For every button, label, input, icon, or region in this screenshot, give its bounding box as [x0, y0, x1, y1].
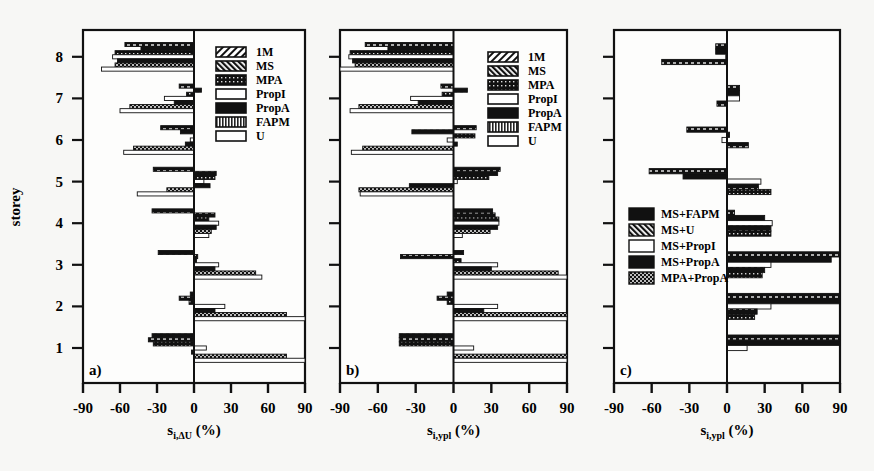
bar-ms [194, 213, 215, 217]
bar-mpa [194, 217, 209, 221]
legend-label: FAPM [256, 115, 290, 129]
legend: MS+FAPMMS+UMS+PropIMS+PropAMPA+PropA [629, 207, 728, 285]
x-tick-label: 90 [298, 400, 313, 416]
bar-ms-fapm [727, 335, 840, 340]
bar-ms-propa [727, 267, 765, 272]
legend-swatch [629, 272, 654, 284]
panel-a: -90-60-30030609012345678si,ΔU (%)a)1MMSM… [56, 30, 313, 441]
bar-1m [454, 167, 501, 171]
legend-swatch [216, 47, 246, 57]
x-tick-label: 30 [224, 400, 239, 416]
bar-1m [454, 209, 493, 213]
bar-propi [194, 346, 206, 350]
legend-label: MS+PropI [661, 239, 716, 253]
bar-ms [148, 338, 194, 342]
legend-label: MPA+PropA [661, 271, 728, 285]
bar-ms-propi [727, 345, 747, 350]
bar-ms [454, 88, 468, 92]
bar-mpa [454, 217, 499, 221]
bar-ms-fapm [727, 252, 840, 257]
bar-mpa [454, 175, 489, 179]
bar-propi [454, 221, 499, 225]
bar-fapm [363, 146, 454, 150]
bar-ms [388, 47, 454, 51]
panel-label: a) [89, 362, 102, 379]
bar-u [340, 67, 454, 71]
legend-label: FAPM [528, 120, 562, 134]
bar-1m [125, 42, 194, 46]
legend-swatch [629, 208, 654, 220]
bar-propi [194, 304, 225, 308]
bar-ms-propi [727, 179, 761, 184]
legend-swatch [629, 256, 654, 268]
legend-label: MPA [256, 73, 283, 87]
bar-u [454, 233, 463, 237]
bar-fapm [454, 271, 559, 275]
bar-mpa [442, 92, 453, 96]
bar-mpa-propa [727, 189, 771, 194]
x-tick-label: 0 [190, 400, 198, 416]
bar-fapm [130, 105, 194, 109]
bar-ms-u [727, 91, 740, 96]
x-tick-label: -30 [679, 400, 699, 416]
bar-propa [454, 308, 484, 312]
bar-propa [194, 267, 215, 271]
bar-ms-u [716, 49, 727, 54]
bar-ms [194, 88, 201, 92]
chart-figure: -90-60-30030609012345678si,ΔU (%)a)1MMSM… [0, 0, 874, 471]
legend-label: PropI [256, 87, 286, 101]
x-tick-label: -90 [330, 400, 350, 416]
panel-b: -90-60-300306090si,ypl (%)b)1MMSMPAPropI… [329, 30, 575, 441]
bar-propa [454, 225, 498, 229]
bar-u [360, 192, 453, 196]
bar-mpa [115, 51, 194, 55]
bar-u [454, 358, 568, 362]
bar-propa [194, 225, 216, 229]
legend-swatch [488, 94, 518, 104]
bar-mpa-propa [727, 231, 771, 236]
bar-ms-propa [727, 143, 748, 148]
bar-propi [411, 96, 454, 100]
bar-mpa [187, 92, 194, 96]
bar-1m [454, 250, 464, 254]
bar-mpa [350, 51, 453, 55]
bar-ms-propi [727, 262, 771, 267]
legend-swatch [488, 52, 518, 62]
bar-propi [113, 55, 194, 59]
bar-mpa [454, 259, 462, 263]
bar-ms-u [683, 174, 727, 179]
bar-ms-propa [727, 309, 757, 314]
bar-mpa [399, 342, 453, 346]
bar-mpa-propa [727, 273, 762, 278]
legend-swatch [216, 61, 246, 71]
bar-u [194, 233, 209, 237]
x-tick-label: -90 [604, 400, 624, 416]
legend-swatch [488, 136, 518, 146]
bar-ms [454, 213, 496, 217]
x-axis-title: si,ypl (%) [427, 422, 480, 441]
y-tick-label: 1 [56, 340, 64, 356]
legend-label: U [256, 129, 265, 143]
bar-fapm [359, 188, 454, 192]
legend-label: MS+FAPM [661, 207, 720, 221]
bar-ms-fapm [687, 127, 727, 132]
legend-label: MPA [528, 78, 555, 92]
bar-ms [454, 171, 498, 175]
bar-ms [412, 130, 454, 134]
bar-ms [141, 47, 194, 51]
bar-1m [365, 42, 453, 46]
bar-ms-u [727, 215, 765, 220]
y-tick-label: 6 [56, 132, 64, 148]
legend-swatch [629, 240, 654, 252]
x-tick-label: 30 [484, 400, 499, 416]
bar-fapm [194, 271, 256, 275]
x-tick-label: 60 [795, 400, 810, 416]
bar-fapm [194, 354, 287, 358]
bar-fapm [454, 229, 491, 233]
bar-fapm [355, 63, 453, 67]
legend-label: PropA [528, 106, 562, 120]
bar-u [454, 275, 568, 279]
y-tick-label: 8 [56, 49, 64, 65]
x-tick-label: -60 [368, 400, 388, 416]
x-tick-label: 90 [560, 400, 575, 416]
